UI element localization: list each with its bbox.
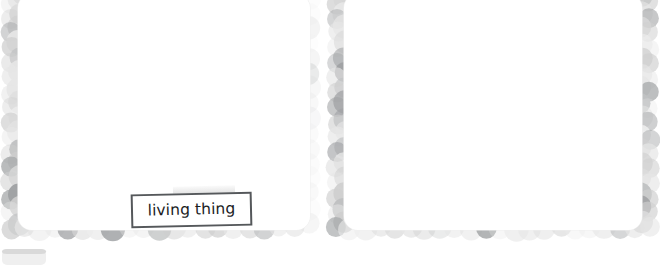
sorting-mat-living-thing[interactable]: living thing bbox=[18, 0, 310, 230]
sorting-mat-non-living-thing[interactable]: non-living thing bbox=[344, 0, 642, 230]
mat-label-text: living thing bbox=[147, 202, 235, 219]
mat-label-chip-living-thing[interactable]: living thing bbox=[131, 192, 253, 229]
partial-card-below-icon bbox=[0, 239, 70, 265]
worksheet-canvas: living thing non-living thing bbox=[0, 0, 660, 265]
mat-surface bbox=[344, 0, 642, 230]
